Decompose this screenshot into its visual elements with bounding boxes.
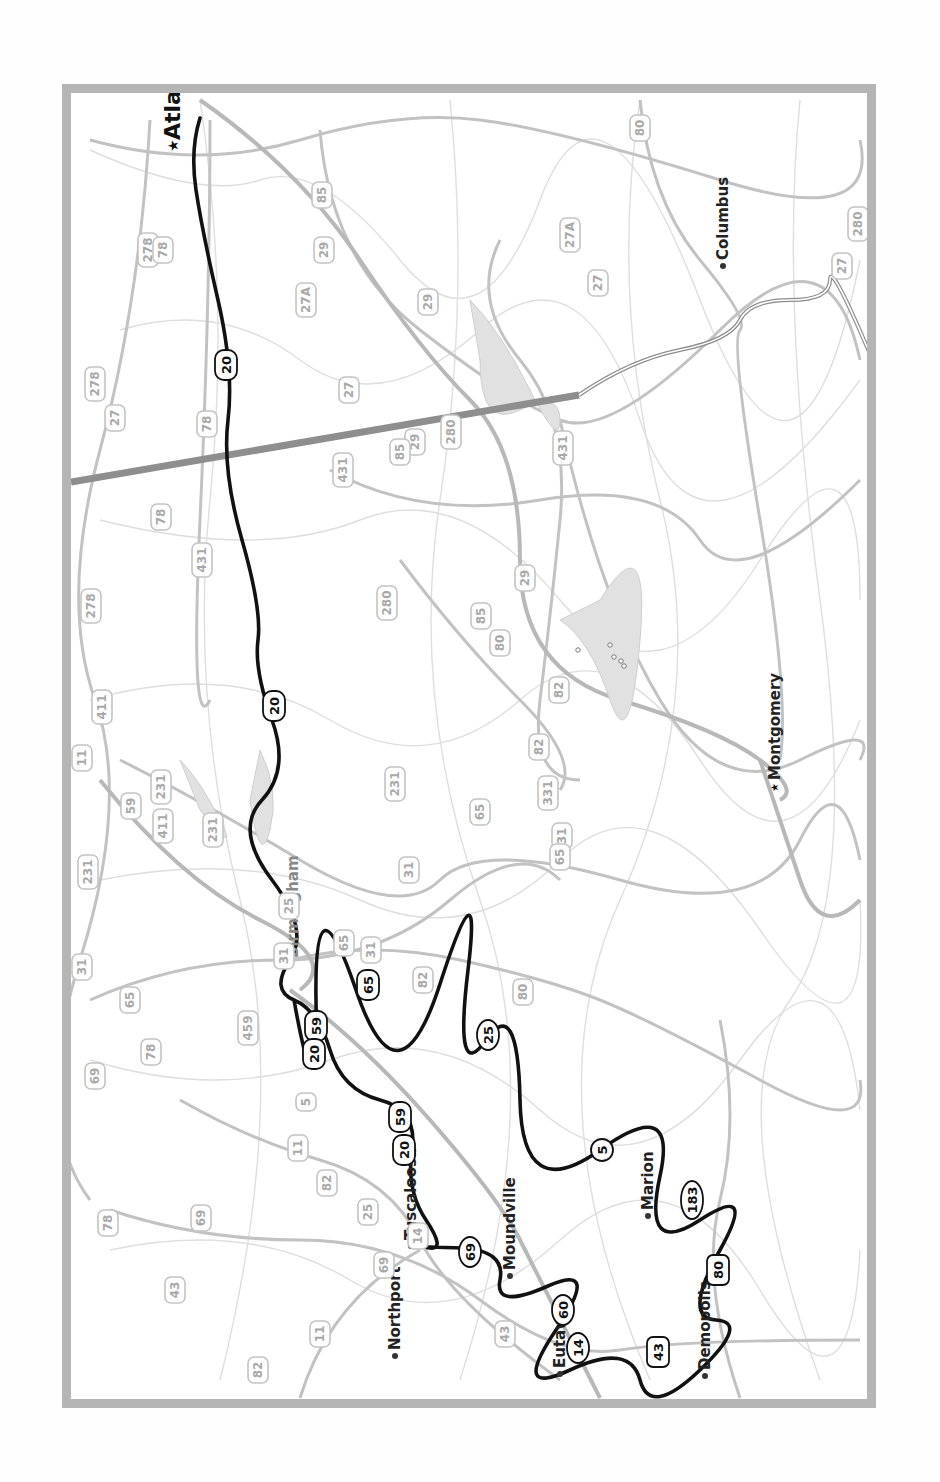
us-highway-shield: 14 [408, 1223, 428, 1249]
shield-label: 85 [393, 444, 407, 461]
route-shield-state: 183 [681, 1181, 703, 1219]
shield-label: 31 [75, 959, 89, 976]
shield-label: 82 [251, 1362, 265, 1379]
us-highway-shield: 29 [314, 237, 334, 263]
us-highway-shield: 85 [390, 439, 410, 465]
shield-label: 183 [685, 1186, 700, 1213]
shield-label: 11 [75, 750, 89, 767]
shield-label: 431 [556, 435, 570, 460]
us-highway-shield: 11 [288, 1135, 308, 1161]
shield-label: 85 [474, 608, 488, 625]
us-highway-shield: 280 [441, 415, 461, 449]
shield-label: 20 [267, 697, 282, 715]
route-shield-interstate: 20 [393, 1135, 415, 1165]
shield-label: 280 [380, 590, 394, 615]
us-highway-shield: 231 [385, 767, 405, 801]
us-highway-shield: 80 [630, 115, 650, 141]
shield-label: 231 [388, 771, 402, 796]
shield-label: 431 [195, 547, 209, 572]
city-label: Marion [639, 1151, 657, 1210]
shield-label: 14 [411, 1228, 425, 1245]
us-highway-shield: 82 [317, 1170, 337, 1196]
shield-label: 65 [553, 849, 567, 866]
us-highway-shield: 431 [553, 431, 573, 465]
city-dot-icon [557, 1371, 563, 1377]
shield-label: 27 [591, 275, 605, 292]
shield-label: 29 [518, 570, 532, 587]
minor-roads [90, 100, 861, 1380]
city-demopolis: Demopolis [696, 1281, 714, 1379]
route-shield-interstate: 59 [389, 1102, 411, 1132]
us-highway-shield: 278 [85, 367, 105, 401]
shield-label: 69 [88, 1068, 102, 1085]
shield-label: 31 [402, 862, 416, 879]
route-shield-us: 43 [647, 1337, 669, 1367]
us-highway-shield: 82 [413, 967, 433, 993]
us-highway-shield: 82 [529, 734, 549, 760]
us-highway-shield: 78 [141, 1039, 161, 1065]
shield-label: 59 [393, 1108, 408, 1126]
us-highway-shield: 431 [333, 453, 353, 487]
us-highway-shield: 5 [296, 1093, 316, 1111]
shield-label: 80 [516, 984, 530, 1001]
shield-label: 278 [84, 593, 98, 618]
shield-label: 20 [397, 1141, 412, 1159]
us-highway-shield: 31 [72, 954, 92, 980]
route-shield-state: 69 [459, 1237, 481, 1267]
island-icon [608, 643, 612, 647]
city-marion: Marion [639, 1151, 657, 1219]
us-highway-shield: 431 [192, 543, 212, 577]
us-highway-shield: 27A [560, 218, 580, 252]
shield-label: 65 [123, 992, 137, 1009]
us-highway-shield: 459 [238, 1011, 258, 1045]
us-highway-shield: 27 [588, 270, 608, 296]
shield-label: 278 [88, 371, 102, 396]
shield-label: 59 [309, 1017, 324, 1035]
shield-label: 280 [851, 211, 865, 236]
shield-label: 11 [291, 1140, 305, 1157]
us-highway-shield: 11 [310, 1321, 330, 1347]
shield-label: 82 [320, 1175, 334, 1192]
us-highway-shield: 82 [248, 1357, 268, 1383]
us-highway-shield: 65 [120, 987, 140, 1013]
city-label: Northport [386, 1266, 404, 1350]
shield-label: 5 [299, 1098, 313, 1106]
shield-label: 27 [108, 410, 122, 427]
shield-label: 25 [361, 1204, 375, 1221]
city-columbus: Columbus [714, 177, 732, 269]
interstates-background [100, 100, 860, 1398]
shield-label: 65 [337, 935, 351, 952]
route-shield-interstate: 20 [303, 1039, 325, 1069]
shield-label: 65 [473, 804, 487, 821]
city-northport: Northport [386, 1266, 404, 1359]
us-highway-shield: 80 [513, 979, 533, 1005]
us-highway-shield: 411 [92, 690, 112, 724]
shield-label: 14 [571, 1339, 586, 1357]
us-highway-shield: 29 [515, 565, 535, 591]
us-highway-shield: 27 [832, 253, 852, 279]
route-shield-us: 80 [707, 1255, 729, 1285]
shield-label: 29 [317, 242, 331, 259]
route-shield-interstate: 20 [215, 350, 237, 380]
city-label: Atlanta [160, 93, 185, 140]
island-icon [622, 664, 626, 668]
us-highway-shield: 31 [399, 857, 419, 883]
us-highway-shield: 280 [377, 586, 397, 620]
us-highway-shield: 85 [312, 182, 332, 208]
city-dot-icon [392, 1353, 398, 1359]
us-highway-shield: 65 [334, 930, 354, 956]
us-highway-shield: 11 [72, 745, 92, 771]
shield-label: 43 [498, 1326, 512, 1343]
us-highway-shield: 82 [549, 677, 569, 703]
island-icon [612, 655, 616, 659]
us-highway-shield: 65 [470, 799, 490, 825]
route-map[interactable]: ★AtlantaColumbusBirmingham★MontgomeryTus… [71, 93, 867, 1399]
shield-label: 231 [81, 859, 95, 884]
chattahoochee-river [579, 276, 867, 395]
city-moundville: Moundville [501, 1177, 519, 1279]
state-line [71, 395, 579, 482]
city-label: Columbus [714, 177, 732, 260]
shield-label: 29 [421, 294, 435, 311]
shield-label: 31 [555, 828, 569, 845]
island-icon [576, 648, 580, 652]
